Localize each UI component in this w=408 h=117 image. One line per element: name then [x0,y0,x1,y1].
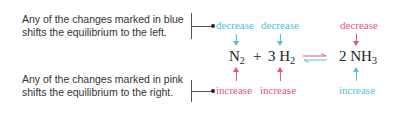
blue-note-line1: Any of the changes marked in blue [22,13,184,26]
decrease-n2-label: decrease [216,19,254,31]
blue-note-line2: shifts the equilibrium to the left. [22,26,184,39]
decrease-h2-label: decrease [261,19,299,31]
top-connector [191,26,213,27]
bottom-dot [211,89,215,93]
plus-sign: + [253,48,261,65]
species-n2: N2 [229,48,245,66]
bottom-connector [191,91,213,92]
increase-n2-label: increase [216,84,252,96]
arrow-down-h2 [280,34,281,42]
blue-note: Any of the changes marked in blue shifts… [22,13,184,39]
top-dot [211,24,215,28]
equilibrium-arrows-icon [302,53,328,63]
species-nh3: 2 NH3 [339,48,377,66]
arrow-down-nh3 [356,34,357,42]
arrow-up-h2 [280,71,281,81]
pink-note-line1: Any of the changes marked in pink [22,73,183,86]
arrow-up-nh3 [356,71,357,81]
arrow-down-n2 [236,34,237,42]
species-h2: 3 H2 [268,48,295,66]
increase-nh3-label: increase [339,84,375,96]
pink-note: Any of the changes marked in pink shifts… [22,73,183,99]
increase-h2-label: increase [260,84,296,96]
decrease-nh3-label: decrease [340,19,378,31]
arrow-up-n2 [236,71,237,81]
pink-note-line2: shifts the equilibrium to the right. [22,86,183,99]
